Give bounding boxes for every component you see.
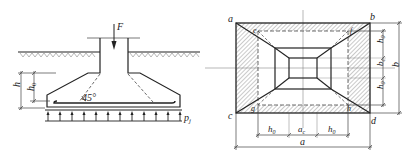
corner-c-label: c [228,110,233,121]
soil-hatch [20,53,199,57]
load-label: F [116,21,124,32]
pedestal-outline [275,48,331,89]
dim-bc-label: bc [375,59,386,67]
height-dimension [18,71,56,110]
footing-plan: a b c d e f g h h0 bc h0 b [205,10,402,150]
dim-ac-label: ac [298,124,306,135]
effective-height-label: h0 [25,82,38,91]
dim-h0-bottom-label: h0 [375,82,386,90]
load-arrowhead [112,41,117,50]
rebar [54,101,175,103]
point-g-label: g [251,104,255,113]
dim-a-label: a [300,136,305,147]
corner-d-label: d [371,115,377,126]
footing-section: 45° F h h0 [11,21,200,125]
point-e-label: e [253,26,257,35]
soil-pressure-arrows [45,114,182,121]
pressure-label: pj [183,112,191,125]
footing-diagram: 45° F h h0 [0,0,413,163]
dim-h0-right-label: h0 [328,124,336,135]
height-label: h [11,82,22,87]
soil-pressure-arrowheads [47,111,182,115]
dim-b-label: b [390,62,401,67]
dim-h0-top-label: h0 [375,36,386,44]
angle-label: 45° [82,92,96,103]
corner-b-label: b [370,11,375,22]
footing-outline [47,38,180,107]
dim-h0-left-label: h0 [268,124,276,135]
corner-a-label: a [228,13,233,24]
